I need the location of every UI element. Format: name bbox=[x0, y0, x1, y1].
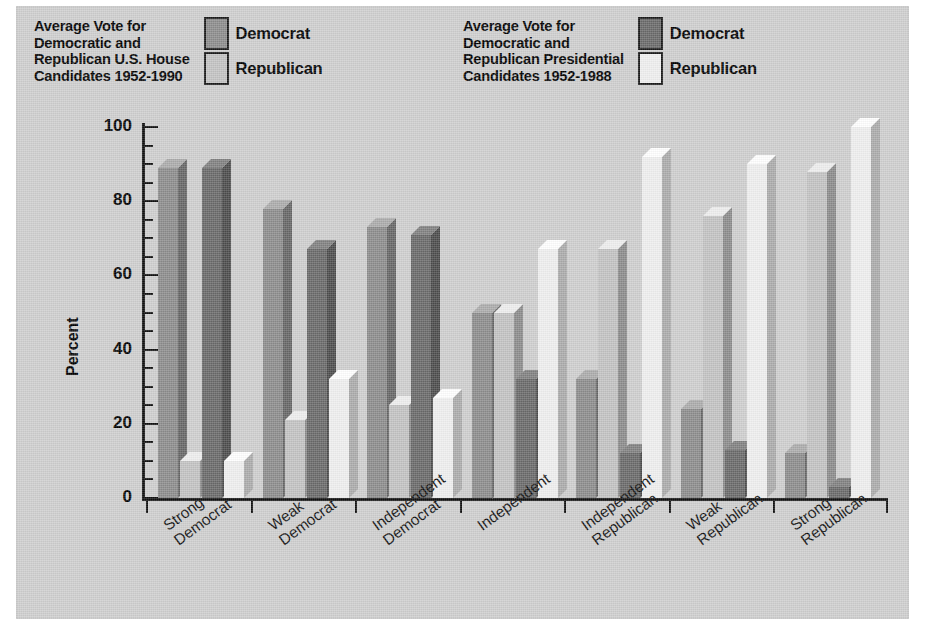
bar-side-face bbox=[767, 155, 776, 498]
y-tick-major bbox=[145, 126, 158, 128]
bar-front-face bbox=[263, 209, 283, 498]
bar bbox=[224, 452, 253, 498]
y-tick-minor bbox=[145, 404, 153, 406]
y-tick-major bbox=[145, 274, 158, 276]
bar bbox=[329, 370, 358, 498]
x-tick bbox=[460, 501, 462, 513]
bar-front-face bbox=[598, 249, 618, 498]
bar-front-face bbox=[642, 157, 662, 498]
bar-side-face bbox=[871, 118, 880, 498]
bar-front-face bbox=[681, 409, 701, 498]
x-tick bbox=[146, 501, 148, 513]
y-tick-label: 100 bbox=[86, 116, 132, 136]
scanned-figure-panel: Average Vote for Democratic and Republic… bbox=[16, 6, 909, 619]
bar-front-face bbox=[747, 164, 767, 498]
bar-side-face bbox=[453, 389, 462, 498]
bar bbox=[807, 163, 836, 498]
bar bbox=[538, 240, 567, 498]
x-tick bbox=[773, 501, 775, 513]
bar bbox=[747, 155, 776, 498]
y-tick-minor bbox=[145, 182, 153, 184]
x-tick bbox=[355, 501, 357, 513]
y-axis-label: Percent bbox=[64, 317, 82, 376]
x-tick-end bbox=[886, 501, 888, 513]
bar-front-face bbox=[851, 127, 871, 498]
bar-front-face bbox=[576, 379, 596, 498]
figure-root: Average Vote for Democratic and Republic… bbox=[0, 0, 925, 635]
bar-front-face bbox=[285, 420, 305, 498]
bar-chart-plot: Percent 020406080100 Strong DemocratWeak… bbox=[16, 6, 909, 619]
x-tick bbox=[251, 501, 253, 513]
x-tick bbox=[669, 501, 671, 513]
y-tick-label: 80 bbox=[86, 190, 132, 210]
bar-front-face bbox=[807, 172, 827, 498]
bar-front-face bbox=[329, 379, 349, 498]
y-tick-major bbox=[145, 349, 158, 351]
y-tick-minor bbox=[145, 367, 153, 369]
y-tick-label: 60 bbox=[86, 264, 132, 284]
y-tick-minor bbox=[145, 256, 153, 258]
bar-front-face bbox=[389, 405, 409, 498]
y-tick-minor bbox=[145, 163, 153, 165]
bar bbox=[202, 159, 231, 498]
y-tick-label: 0 bbox=[86, 487, 132, 507]
bar-side-face bbox=[178, 159, 187, 498]
bar-side-face bbox=[662, 148, 671, 498]
y-tick-major bbox=[145, 497, 158, 499]
bar-front-face bbox=[703, 216, 723, 498]
y-tick-minor bbox=[145, 219, 153, 221]
bar-side-face bbox=[827, 163, 836, 498]
bar-side-face bbox=[349, 370, 358, 498]
bar-front-face bbox=[307, 249, 327, 498]
bar bbox=[851, 118, 880, 498]
y-tick-minor bbox=[145, 330, 153, 332]
y-tick-minor bbox=[145, 386, 153, 388]
bar bbox=[642, 148, 671, 498]
bar-front-face bbox=[538, 249, 558, 498]
x-tick bbox=[564, 501, 566, 513]
y-tick-minor bbox=[145, 293, 153, 295]
y-tick-label: 40 bbox=[86, 339, 132, 359]
y-tick-minor bbox=[145, 478, 153, 480]
y-tick-minor bbox=[145, 441, 153, 443]
y-tick-minor bbox=[145, 312, 153, 314]
bar-front-face bbox=[367, 227, 387, 498]
bar-front-face bbox=[411, 235, 431, 498]
bar-front-face bbox=[785, 453, 805, 498]
y-tick-major bbox=[145, 423, 158, 425]
bar-front-face bbox=[494, 313, 514, 499]
bar-side-face bbox=[222, 159, 231, 498]
bar-front-face bbox=[202, 168, 222, 498]
bar-front-face bbox=[472, 313, 492, 499]
y-tick-minor bbox=[145, 460, 153, 462]
bar-front-face bbox=[158, 168, 178, 498]
bar bbox=[158, 159, 187, 498]
y-tick-major bbox=[145, 200, 158, 202]
y-tick-label: 20 bbox=[86, 413, 132, 433]
bar-front-face bbox=[224, 461, 244, 498]
bar-side-face bbox=[558, 240, 567, 498]
y-tick-minor bbox=[145, 145, 153, 147]
y-tick-minor bbox=[145, 237, 153, 239]
